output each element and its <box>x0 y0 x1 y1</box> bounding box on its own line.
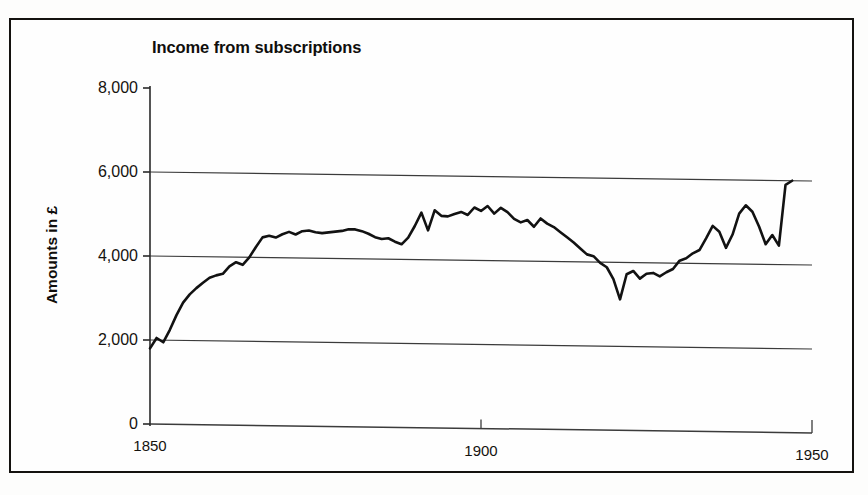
y-axis-title: Amounts in £ <box>43 155 61 355</box>
y-tick-label: 0 <box>129 415 138 433</box>
data-series-line <box>150 181 792 349</box>
x-tick-label: 1950 <box>795 446 828 463</box>
axis-lines <box>150 86 812 433</box>
y-tick-label: 4,000 <box>98 247 138 265</box>
x-tick-label: 1850 <box>133 437 166 454</box>
y-tick-label: 6,000 <box>98 163 138 181</box>
figure: Income from subscriptions Amounts in £ 8… <box>0 0 868 495</box>
y-tick-label: 8,000 <box>98 79 138 97</box>
chart-svg <box>150 88 812 424</box>
chart-title: Income from subscriptions <box>152 38 361 57</box>
y-tick-label: 2,000 <box>98 331 138 349</box>
x-tick-label: 1900 <box>464 442 497 459</box>
plot-area: 8,0006,0004,0002,0000 185019001950 <box>150 88 812 424</box>
